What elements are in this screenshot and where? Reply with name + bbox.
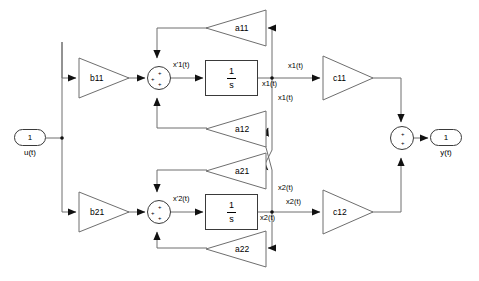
integrator-fraction-top: 1 s (227, 67, 236, 90)
fraction-bar-icon (227, 78, 236, 79)
integrator-numerator-bottom: 1 (229, 201, 234, 211)
output-port-number: 1 (444, 133, 448, 142)
sum-sign-top: + (401, 131, 405, 137)
sum-sign-bottom: + (401, 140, 405, 146)
fraction-bar-icon (227, 212, 236, 213)
signal-label-x1-left: x1(t) (262, 79, 277, 88)
gain-label-a11: a11 (235, 23, 249, 33)
gain-block-a21[interactable]: a21 (205, 152, 267, 190)
sum-sign-bottom: + (158, 81, 162, 87)
integrator-block-top[interactable]: 1 s (205, 60, 258, 96)
integrator-block-bottom[interactable]: 1 s (205, 194, 258, 230)
integrator-fraction-bottom: 1 s (227, 201, 236, 224)
input-port-label: u(t) (14, 148, 46, 157)
gain-block-b21[interactable]: b21 (78, 191, 130, 233)
signal-tap-u (60, 136, 64, 140)
gain-label-b11: b11 (90, 73, 104, 83)
sum-sign-left: + (151, 210, 155, 216)
sum-sign-left: + (151, 76, 155, 82)
signal-label-x1-top: x1(t) (288, 61, 303, 70)
gain-label-c11: c11 (333, 73, 346, 83)
gain-block-c12[interactable]: c12 (322, 189, 374, 235)
signal-label-xdot2: x'2(t) (173, 194, 189, 203)
integrator-numerator-top: 1 (229, 67, 234, 77)
output-port-label: y(t) (430, 148, 462, 157)
signal-label-x2-middle: x2(t) (286, 197, 301, 206)
sum-block-bottom[interactable]: + + + (147, 200, 171, 224)
gain-block-a11[interactable]: a11 (205, 9, 267, 47)
integrator-denominator-top: s (229, 80, 234, 90)
gain-label-a12: a12 (235, 124, 249, 134)
sum-sign-top: + (158, 70, 162, 76)
integrator-denominator-bottom: s (229, 214, 234, 224)
sum-block-output[interactable]: + + (390, 126, 414, 150)
sum-block-top[interactable]: + + + (147, 66, 171, 90)
gain-label-a21: a21 (235, 166, 249, 176)
signal-label-x2-top: x2(t) (278, 183, 293, 192)
block-diagram-canvas: 1 u(t) 1 y(t) b11 b21 a11 a12 (0, 0, 479, 281)
gain-label-a22: a22 (235, 244, 249, 254)
signal-label-xdot1: x'1(t) (173, 60, 189, 69)
sum-sign-top: + (158, 204, 162, 210)
signal-label-x2-left: x2(t) (260, 213, 275, 222)
gain-block-a22[interactable]: a22 (205, 230, 267, 268)
signal-label-x1-bottom: x1(t) (278, 93, 293, 102)
gain-block-a12[interactable]: a12 (205, 110, 267, 148)
input-port-u[interactable]: 1 (14, 129, 46, 146)
sum-sign-bottom: + (158, 215, 162, 221)
gain-block-c11[interactable]: c11 (322, 55, 374, 101)
gain-label-c12: c12 (333, 207, 347, 217)
gain-block-b11[interactable]: b11 (78, 57, 130, 99)
output-port-y[interactable]: 1 (430, 129, 462, 146)
input-port-number: 1 (28, 133, 32, 142)
gain-label-b21: b21 (90, 207, 104, 217)
